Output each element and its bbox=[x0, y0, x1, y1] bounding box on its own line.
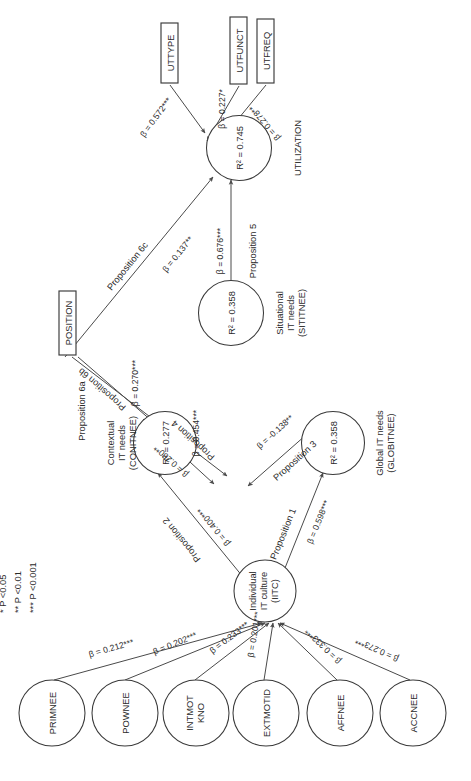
node-globitnee[interactable]: R² = 0.358 Global IT needs (GLOBITNEE) bbox=[302, 410, 397, 476]
legend-line-1: *** P <0.001 bbox=[28, 562, 38, 613]
node-globitnee-label-line2: (GLOBITNEE) bbox=[386, 413, 396, 472]
edge-label-sititnee-utilization-proposition: Proposition 5 bbox=[248, 224, 258, 278]
node-sititnee-r2: R² = 0.358 bbox=[227, 291, 237, 335]
node-conitnee-label-line1: Contextual bbox=[106, 421, 116, 465]
node-iitc-label-line3: (IITC) bbox=[270, 579, 280, 603]
legend-line-3: * P <0.05 bbox=[0, 575, 8, 613]
node-iitc-label-line2: IT culture bbox=[259, 572, 269, 611]
node-position-label: POSITION bbox=[64, 301, 74, 345]
node-utfunct-label: UTFUNCT bbox=[235, 28, 245, 72]
node-extmotid-label: EXTMOTID bbox=[262, 689, 272, 737]
node-globitnee-label-line1: Global IT needs bbox=[375, 410, 385, 476]
node-intmotkno-label-line2: KNO bbox=[196, 703, 206, 723]
node-pownee[interactable]: POWNEE bbox=[92, 680, 158, 746]
path-diagram-canvas: R² = 0.745 UTILIZATION R² = 0.358 Situat… bbox=[0, 0, 471, 781]
node-globitnee-r2: R² = 0.358 bbox=[329, 421, 339, 465]
node-uttype-label: UTTYPE bbox=[166, 35, 176, 72]
node-utilization-r2: R² = 0.745 bbox=[235, 126, 245, 170]
node-affnee[interactable]: AFFNEE bbox=[307, 680, 373, 746]
edge-label-utfunct-utilization-beta: β = 0.227* bbox=[217, 89, 227, 129]
node-iitc[interactable]: Individual IT culture (IITC) bbox=[234, 560, 296, 622]
node-accnee[interactable]: ACCNEE bbox=[380, 680, 446, 746]
legend-line-2: ** P <0.01 bbox=[13, 571, 23, 613]
node-sititnee-label-line3: (SITITNEE) bbox=[297, 289, 307, 337]
node-primnee-label: PRIMNEE bbox=[48, 692, 58, 734]
node-sititnee-label-line2: IT needs bbox=[286, 295, 296, 331]
node-utilization-label: UTILIZATION bbox=[293, 120, 303, 176]
node-intmotkno-label-line1: INTMOT bbox=[185, 695, 195, 731]
node-conitnee-label-line2: IT needs bbox=[117, 425, 127, 461]
node-conitnee-label-line3: (CONITNEE) bbox=[128, 416, 138, 470]
edge-label-sititnee-utilization-beta: β = 0.676*** bbox=[215, 227, 225, 274]
node-iitc-label-line1: Individual bbox=[248, 571, 258, 610]
node-accnee-label: ACCNEE bbox=[409, 694, 419, 733]
node-extmotid[interactable]: EXTMOTID bbox=[233, 680, 299, 746]
node-primnee[interactable]: PRIMNEE bbox=[19, 680, 85, 746]
node-affnee-label: AFFNEE bbox=[336, 695, 346, 732]
edge-label-position-sititnee-proposition: Proposition 6a bbox=[77, 380, 87, 440]
node-sititnee-label-line1: Situational bbox=[275, 291, 285, 334]
node-utfreq-label: UTFREQ bbox=[262, 32, 272, 70]
edge-label-position-conitnee-beta: β = 0.270*** bbox=[130, 359, 140, 406]
node-pownee-label: POWNEE bbox=[121, 692, 131, 733]
node-intmotkno[interactable]: INTMOT KNO bbox=[163, 680, 229, 746]
node-utfunct[interactable]: UTFUNCT bbox=[230, 17, 247, 84]
node-uttype[interactable]: UTTYPE bbox=[161, 23, 178, 83]
node-position[interactable]: POSITION bbox=[59, 291, 76, 355]
node-utfreq[interactable]: UTFREQ bbox=[257, 19, 274, 83]
